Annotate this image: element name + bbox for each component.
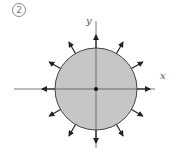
outward-arrow-icon bbox=[69, 125, 76, 136]
outward-arrow-icon bbox=[69, 42, 76, 53]
outward-arrow-icon bbox=[132, 62, 143, 69]
outward-arrow-icon bbox=[49, 110, 60, 117]
origin-dot bbox=[94, 87, 98, 91]
outward-vector-field-diagram bbox=[0, 0, 185, 154]
x-axis-label: x bbox=[160, 70, 166, 81]
outward-arrow-icon bbox=[117, 42, 124, 53]
outward-arrow-icon bbox=[132, 110, 143, 117]
y-axis-label: y bbox=[86, 15, 92, 26]
outward-arrow-icon bbox=[49, 62, 60, 69]
outward-arrow-icon bbox=[117, 125, 124, 136]
